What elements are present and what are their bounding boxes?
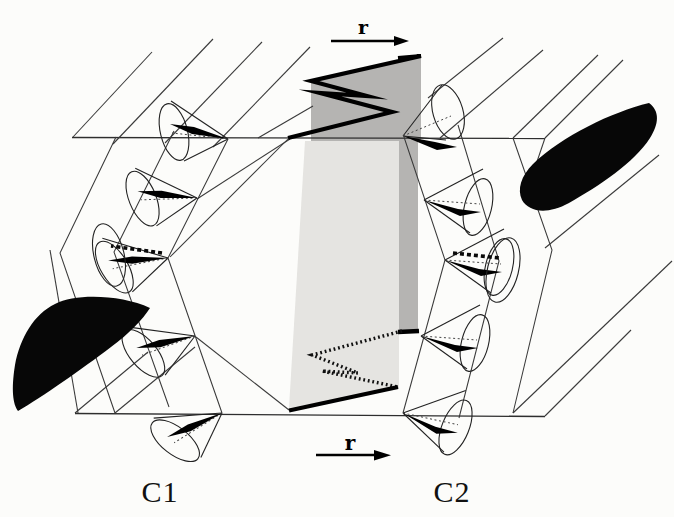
r-label-top: r xyxy=(358,16,369,38)
label-c2: C2 xyxy=(433,475,470,508)
c2-cone-2 xyxy=(424,169,498,238)
c2-cone-4 xyxy=(421,305,495,374)
diagram-canvas: r r C1 C2 xyxy=(0,0,674,517)
defect-wall-light-band xyxy=(289,141,399,408)
bottom-plate-line xyxy=(75,414,545,417)
layer-lines-top-right xyxy=(428,38,623,138)
c1-cone-5 xyxy=(140,383,237,478)
c1-cone-3-kink xyxy=(86,221,175,303)
c2-kink-cone-extras xyxy=(453,234,526,306)
rubbing-direction-top: r xyxy=(331,16,409,46)
right-arrow-icon xyxy=(331,36,409,46)
blob-left xyxy=(13,297,150,411)
c1-cone-2 xyxy=(118,160,200,233)
c1-cone-1 xyxy=(154,101,228,164)
top-plate-line xyxy=(72,138,545,139)
figure-chevron-structures: r r C1 C2 xyxy=(0,0,674,517)
blob-right xyxy=(520,103,657,211)
c2-cone-5 xyxy=(398,382,481,461)
r-label-bottom: r xyxy=(345,431,356,455)
chevron-c1-layer-boundaries xyxy=(60,131,290,413)
rubbing-direction-bottom: r xyxy=(316,431,391,461)
c2-cone-3-kink xyxy=(445,229,519,298)
label-c1: C1 xyxy=(141,475,178,508)
